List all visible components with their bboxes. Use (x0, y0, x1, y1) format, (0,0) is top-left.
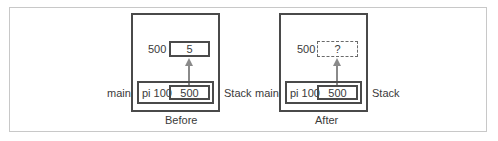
diagram-caption: After (315, 114, 338, 126)
variable-value-cell: 500 (317, 85, 358, 100)
variable-label: pi 100 (290, 87, 320, 99)
heap-value-cell: 5 (169, 41, 210, 57)
heap-address-label: 500 (297, 43, 315, 55)
variable-value: 500 (328, 87, 346, 99)
heap-address-label: 500 (148, 43, 166, 55)
figure-frame (9, 7, 487, 132)
variable-label: pi 100 (142, 87, 172, 99)
diagram-caption: Before (165, 114, 197, 126)
heap-value: ? (334, 43, 340, 55)
heap-value-cell-freed: ? (317, 41, 358, 57)
region-label: Stack (224, 87, 252, 99)
region-label: Stack (372, 87, 400, 99)
frame-label: main (107, 87, 131, 99)
variable-value-cell: 500 (169, 85, 210, 100)
frame-label: main (255, 87, 279, 99)
heap-value: 5 (186, 43, 192, 55)
variable-value: 500 (180, 87, 198, 99)
